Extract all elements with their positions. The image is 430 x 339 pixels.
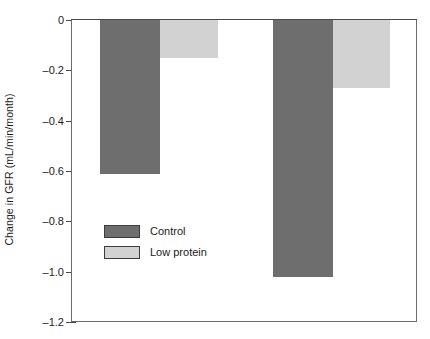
bar-control-group2 [273,20,333,277]
legend-swatch-icon [104,225,140,238]
bar-chart: Change in GFR (mL/min/month) 0–0.2–0.4–0… [0,0,430,339]
legend-swatch-icon [104,246,140,259]
bar-control-group1 [100,20,160,174]
legend-label: Low protein [150,246,207,258]
legend-item-low-protein: Low protein [104,243,207,261]
bar-low-protein-group2 [333,20,390,88]
y-tick-mark [66,322,76,323]
plot-area [71,20,417,322]
legend-item-control: Control [104,222,207,240]
chart-legend: ControlLow protein [104,222,207,264]
bar-low-protein-group1 [160,20,218,58]
legend-label: Control [150,225,185,237]
